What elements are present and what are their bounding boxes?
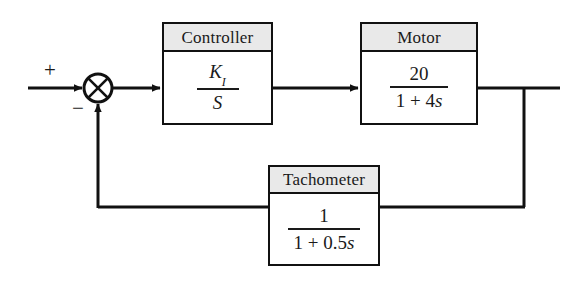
- tachometer-denominator: 1 + 0.5s: [288, 230, 361, 253]
- summing-junction-minus-sign: −: [72, 98, 84, 119]
- controller-denominator: S: [207, 90, 229, 113]
- motor-denominator-variable: s: [435, 90, 442, 111]
- block-motor-header: Motor: [362, 24, 476, 52]
- block-diagram: + − Controller KI S Motor 20 1 + 4s Tach…: [0, 0, 579, 285]
- controller-gain-symbol: K: [209, 61, 222, 82]
- block-motor-body: 20 1 + 4s: [362, 52, 476, 123]
- tachometer-denominator-prefix: 1 + 0.5: [294, 232, 347, 253]
- block-tachometer[interactable]: Tachometer 1 1 + 0.5s: [268, 165, 380, 266]
- motor-transfer-function: 20 1 + 4s: [390, 64, 449, 111]
- block-controller-body: KI S: [164, 52, 271, 123]
- tachometer-transfer-function: 1 1 + 0.5s: [288, 206, 361, 253]
- controller-denominator-symbol: S: [213, 92, 223, 113]
- controller-gain-subscript: I: [222, 75, 226, 89]
- block-motor[interactable]: Motor 20 1 + 4s: [360, 22, 478, 125]
- tachometer-denominator-variable: s: [347, 232, 354, 253]
- tachometer-numerator: 1: [313, 206, 335, 228]
- motor-numerator: 20: [404, 64, 435, 86]
- block-tachometer-header: Tachometer: [270, 167, 378, 194]
- block-controller-header: Controller: [164, 24, 271, 52]
- motor-denominator: 1 + 4s: [390, 88, 449, 111]
- motor-denominator-prefix: 1 + 4: [396, 90, 435, 111]
- block-tachometer-body: 1 1 + 0.5s: [270, 194, 378, 264]
- controller-transfer-function: KI S: [197, 62, 239, 112]
- block-controller[interactable]: Controller KI S: [162, 22, 273, 125]
- controller-numerator: KI: [203, 62, 232, 87]
- summing-junction-plus-sign: +: [44, 60, 56, 81]
